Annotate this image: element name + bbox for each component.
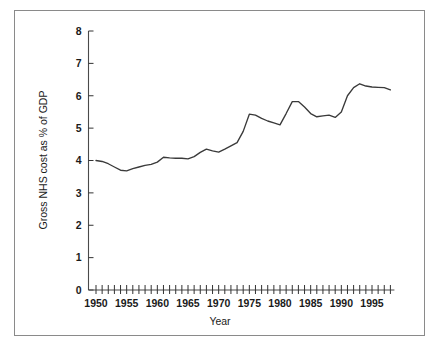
x-tick-label: 1990 [330, 297, 354, 309]
x-tick-label: 1965 [176, 297, 200, 309]
x-tick-labels: 1950195519601965197019751980198519901995 [84, 297, 384, 309]
y-axis [89, 31, 94, 290]
y-tick-label: 7 [76, 57, 82, 69]
x-tick-label: 1975 [238, 297, 262, 309]
nhs-cost-line-chart: 012345678 195019551960196519701975198019… [0, 0, 440, 348]
x-axis-title: Year [209, 315, 231, 327]
y-tick-label: 0 [76, 284, 82, 296]
x-tick-label: 1985 [299, 297, 323, 309]
x-tick-label: 1980 [268, 297, 292, 309]
y-tick-label: 6 [76, 90, 82, 102]
x-axis [89, 285, 395, 294]
y-tick-label: 4 [76, 154, 82, 166]
x-tick-label: 1970 [207, 297, 231, 309]
y-tick-label: 1 [76, 251, 82, 263]
data-series-line [96, 84, 390, 171]
x-tick-label: 1950 [84, 297, 108, 309]
y-tick-label: 8 [76, 25, 82, 37]
y-tick-label: 5 [76, 122, 82, 134]
y-tick-label: 3 [76, 187, 82, 199]
y-tick-label: 2 [76, 219, 82, 231]
x-tick-label: 1960 [146, 297, 170, 309]
y-axis-title: Gross NHS cost as % of GDP [37, 91, 49, 230]
x-tick-label: 1995 [360, 297, 384, 309]
x-tick-label: 1955 [115, 297, 139, 309]
y-tick-labels: 012345678 [76, 25, 82, 296]
